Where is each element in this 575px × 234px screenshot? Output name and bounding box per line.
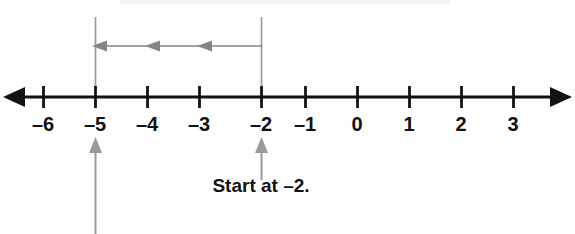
axis [3, 87, 572, 107]
tick-labels: –6 –5 –4 –3 –2 –1 0 1 2 3 [32, 113, 519, 135]
scan-artifact [120, 0, 450, 4]
start-pointer-arrowhead-icon [255, 137, 268, 153]
hop-arrowhead-1 [197, 41, 212, 52]
hop-arrows [92, 41, 262, 52]
tick-label-three: 3 [507, 113, 518, 135]
tick-label-minus2: –2 [250, 113, 272, 135]
number-line-figure: –6 –5 –4 –3 –2 –1 0 1 2 3 Start at –2. [0, 0, 575, 234]
axis-arrowhead-right [550, 87, 572, 107]
tick-label-zero: 0 [351, 113, 362, 135]
start-caption: Start at –2. [212, 175, 309, 196]
tick-label-minus1: –1 [294, 113, 316, 135]
start-marker: Start at –2. [212, 137, 309, 196]
tick-label-minus5: –5 [84, 113, 106, 135]
guide-lines [96, 17, 262, 90]
end-pointer-arrowhead-icon [89, 137, 102, 153]
tick-label-minus6: –6 [32, 113, 54, 135]
tick-label-one: 1 [403, 113, 414, 135]
end-marker [89, 137, 102, 234]
tick-label-two: 2 [455, 113, 466, 135]
tick-label-minus3: –3 [188, 113, 210, 135]
tick-label-minus4: –4 [136, 113, 159, 135]
hop-arrowhead-2 [145, 41, 160, 52]
hop-arrowhead-3 [92, 41, 107, 52]
number-line-canvas: –6 –5 –4 –3 –2 –1 0 1 2 3 Start at –2. [0, 0, 575, 234]
axis-arrowhead-left [3, 87, 25, 107]
